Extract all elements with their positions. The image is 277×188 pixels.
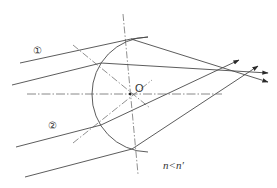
center-point [129, 93, 132, 96]
normal-line-upper-left [73, 45, 150, 108]
ray-bundle-2-label: ② [48, 120, 57, 131]
ray-2b [25, 149, 132, 177]
ray-bundle-1-label: ① [33, 45, 42, 56]
ray-2a [16, 125, 101, 147]
ray-1a-refracted [131, 39, 268, 82]
ray-1b [12, 63, 101, 85]
ray-2b-refracted [132, 66, 258, 149]
center-label: O [135, 82, 144, 94]
ray-1b-refracted [101, 63, 268, 73]
refractive-index-relation: n<n′ [163, 159, 184, 171]
refraction-diagram: O ① ② [0, 0, 277, 188]
spherical-surface [92, 37, 148, 152]
